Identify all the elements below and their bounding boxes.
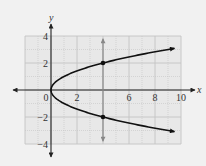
x-tick-label: 6 [127,92,132,103]
intersection-point [101,61,106,66]
x-tick-label: 0 [44,92,49,103]
graph: 02681042−2−4 x y [0,0,206,166]
y-tick-label: 4 [43,31,48,42]
x-tick-label: 2 [75,92,80,103]
y-tick-label: −2 [37,112,48,123]
y-tick-label: 2 [43,58,48,69]
x-tick-label: 8 [153,92,158,103]
intersection-point [101,115,106,120]
y-tick-label: −4 [37,139,48,150]
y-axis-label: y [48,12,54,23]
x-tick-label: 10 [176,92,186,103]
x-axis-label: x [196,84,202,95]
